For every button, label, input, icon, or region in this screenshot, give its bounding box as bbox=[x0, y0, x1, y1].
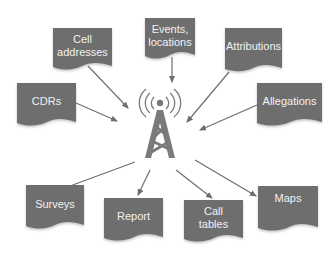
label-events-line2: locations bbox=[148, 36, 191, 48]
label-report: Report bbox=[117, 210, 150, 228]
label-cell-addresses-line1: Cell bbox=[73, 33, 92, 45]
label-attributions: Attributions bbox=[226, 40, 281, 58]
arrow-report bbox=[138, 170, 150, 195]
label-call-tables-line2: tables bbox=[199, 218, 228, 230]
arrow-cell-addresses bbox=[88, 66, 128, 108]
label-surveys: Surveys bbox=[35, 198, 75, 216]
label-events-line1: Events, bbox=[152, 23, 189, 35]
box-maps: Maps bbox=[258, 186, 318, 216]
box-surveys: Surveys bbox=[26, 185, 84, 228]
box-cell-addresses: Celladdresses bbox=[53, 28, 112, 68]
cell-tower-icon bbox=[139, 89, 180, 158]
arrow-allegations bbox=[200, 105, 257, 130]
arrow-maps bbox=[195, 160, 256, 196]
box-allegations: Allegations bbox=[257, 83, 322, 125]
box-attributions: Attributions bbox=[225, 28, 282, 70]
label-maps: Maps bbox=[275, 192, 302, 210]
line-surveys bbox=[70, 162, 135, 186]
box-events-locations: Events,locations bbox=[145, 18, 195, 58]
label-cdrs: CDRs bbox=[32, 95, 61, 113]
label-call-tables-line1: Call bbox=[204, 205, 223, 217]
arrow-call-tables bbox=[176, 170, 212, 198]
label-allegations: Allegations bbox=[263, 95, 317, 113]
label-cell-addresses-line2: addresses bbox=[57, 46, 108, 58]
arrow-cdrs bbox=[76, 103, 117, 121]
box-cdrs: CDRs bbox=[17, 83, 76, 125]
box-call-tables: Calltables bbox=[184, 200, 243, 241]
arrow-attributions bbox=[187, 72, 229, 122]
box-report: Report bbox=[104, 198, 163, 240]
